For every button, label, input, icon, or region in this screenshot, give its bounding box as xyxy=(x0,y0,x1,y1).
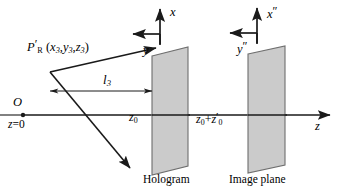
point-source-label: P′R (x3,y3,z3) xyxy=(27,39,89,55)
hologram-plane-shape xyxy=(152,47,188,175)
hologram-y-axis-label: y xyxy=(143,44,149,57)
figure-container: P′R (x3,y3,z3) l3 O z=0 z0 z0+z′0 z x y … xyxy=(0,0,342,196)
image-x-axis-label: x″ xyxy=(267,6,278,20)
diagram-canvas xyxy=(0,0,342,196)
l3-distance-label: l3 xyxy=(103,73,111,88)
z-equals-zero-label: z=0 xyxy=(8,119,25,131)
z-axis-label: z xyxy=(315,120,320,133)
ray-lower xyxy=(50,72,130,168)
origin-label: O xyxy=(13,96,22,109)
image-y-axis-label: y″ xyxy=(237,41,248,55)
origin-dot xyxy=(21,113,25,117)
image-plane-caption: Image plane xyxy=(229,174,286,186)
hologram-x-axis-label: x xyxy=(170,6,176,19)
hologram-distance-label: z0 xyxy=(129,111,138,125)
image-distance-label: z0+z′0 xyxy=(196,111,223,127)
image-plane-shape xyxy=(248,46,285,173)
hologram-caption: Hologram xyxy=(143,174,190,186)
